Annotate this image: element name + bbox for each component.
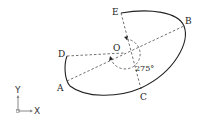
axis-y-label: Y — [14, 85, 21, 95]
diagram-canvas: E B O D A C 275° Y X — [0, 0, 204, 121]
line-E-C — [121, 13, 141, 89]
curve-outline — [65, 11, 185, 95]
angle-label: 275° — [135, 64, 154, 73]
label-E: E — [112, 7, 119, 17]
axis-x-label: X — [34, 106, 40, 116]
label-B: B — [185, 16, 192, 26]
label-O: O — [113, 43, 120, 53]
label-D: D — [58, 49, 65, 59]
line-D-O — [67, 53, 124, 56]
arrowhead-left-icon — [109, 56, 113, 61]
label-A: A — [56, 83, 64, 93]
label-C: C — [140, 92, 147, 102]
line-A-B — [67, 26, 184, 81]
axis-icon: Y X — [14, 85, 40, 116]
